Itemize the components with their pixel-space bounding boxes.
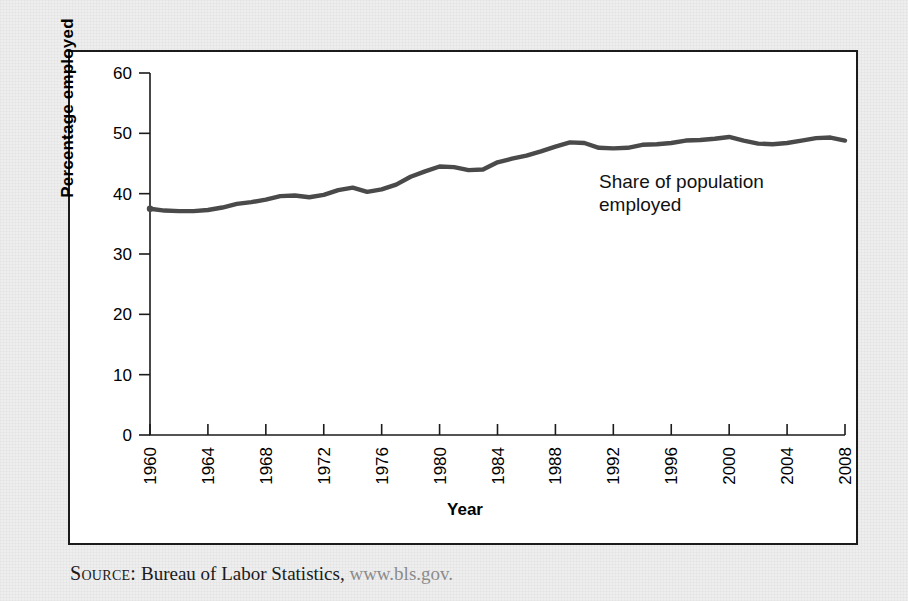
tick-labels-group: 0102030405060196019641968197219761980198… <box>113 64 855 485</box>
y-axis-title: Percentage employed <box>58 0 78 228</box>
y-tick-label-0: 0 <box>123 426 132 445</box>
source-label: Source: <box>70 562 136 584</box>
x-tick-label-1984: 1984 <box>489 447 508 485</box>
y-tick-label-50: 50 <box>113 124 132 143</box>
x-tick-label-2000: 2000 <box>720 447 739 485</box>
x-tick-label-2004: 2004 <box>778 447 797 485</box>
x-tick-label-1988: 1988 <box>546 447 565 485</box>
x-axis-title: Year <box>70 500 860 520</box>
y-tick-label-20: 20 <box>113 305 132 324</box>
x-tick-label-1964: 1964 <box>199 447 218 485</box>
axis-spines <box>150 73 845 435</box>
source-url-link[interactable]: www.bls.gov. <box>349 563 453 584</box>
source-note: Source: Bureau of Labor Statistics, www.… <box>70 562 453 585</box>
y-tick-label-40: 40 <box>113 185 132 204</box>
series-annotation-label: Share of population employed <box>599 170 764 216</box>
x-tick-label-1980: 1980 <box>431 447 450 485</box>
x-tick-label-1972: 1972 <box>315 447 334 485</box>
chart-plot-area: 0102030405060196019641968197219761980198… <box>70 52 856 543</box>
y-tick-label-10: 10 <box>113 366 132 385</box>
x-tick-label-1976: 1976 <box>373 447 392 485</box>
source-body-text: Bureau of Labor Statistics, <box>136 563 349 584</box>
x-tick-label-1992: 1992 <box>604 447 623 485</box>
x-tick-label-1960: 1960 <box>141 447 160 485</box>
x-tick-label-2008: 2008 <box>836 447 855 485</box>
figure-frame: 0102030405060196019641968197219761980198… <box>68 50 858 545</box>
y-tick-label-60: 60 <box>113 64 132 83</box>
tick-marks-group <box>139 73 845 435</box>
x-tick-label-1968: 1968 <box>257 447 276 485</box>
x-tick-label-1996: 1996 <box>662 447 681 485</box>
series-start-marker <box>147 206 153 212</box>
y-tick-label-30: 30 <box>113 245 132 264</box>
